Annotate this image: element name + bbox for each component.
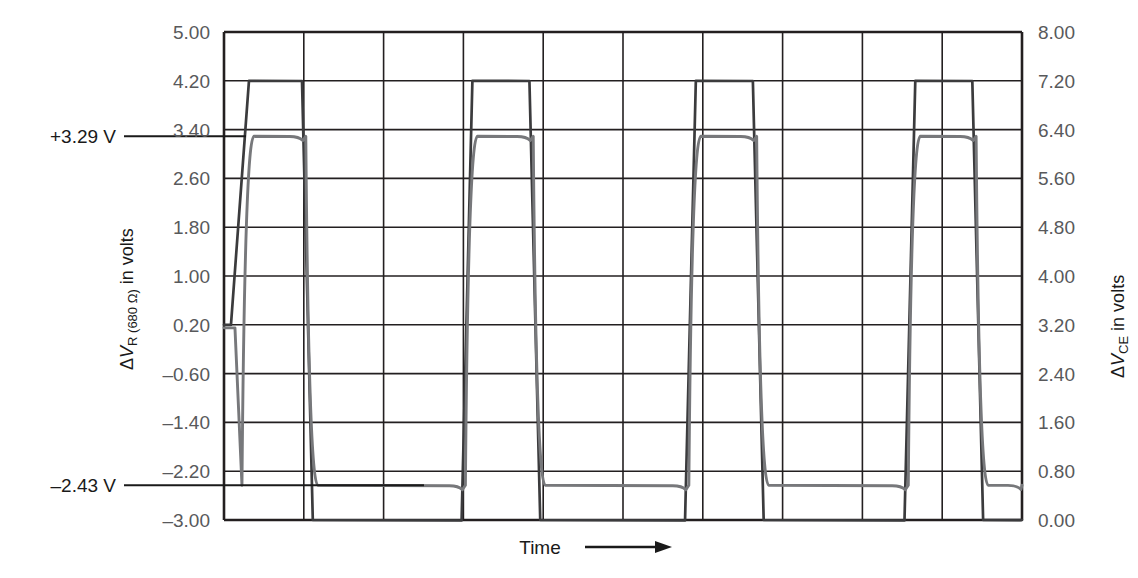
left-tick-label: –3.00	[162, 510, 210, 531]
right-tick-label: 8.00	[1038, 22, 1075, 43]
right-axis-title: ΔVCE in volts	[1108, 275, 1131, 378]
right-tick-label: 2.40	[1038, 364, 1075, 385]
annotation-value-label: +3.29 V	[50, 126, 116, 147]
annotation-value-label: –2.43 V	[51, 475, 117, 496]
x-axis-label: Time	[519, 537, 561, 558]
right-tick-label: 5.60	[1038, 168, 1075, 189]
right-tick-label: 0.00	[1038, 510, 1075, 531]
right-tick-label: 0.80	[1038, 461, 1075, 482]
right-axis-ticks: 8.007.206.405.604.804.003.202.401.600.80…	[1038, 22, 1075, 531]
right-tick-label: 4.00	[1038, 266, 1075, 287]
annotation-labels: +3.29 V–2.43 V	[50, 126, 116, 496]
left-tick-label: 0.20	[173, 315, 210, 336]
left-axis-title: ΔVR (680 Ω) in volts	[117, 228, 140, 370]
left-axis-ticks: 5.004.203.402.601.801.000.20–0.60–1.40–2…	[162, 22, 210, 531]
svg-text:ΔVCE in volts: ΔVCE in volts	[1108, 275, 1131, 378]
left-tick-label: –1.40	[162, 412, 210, 433]
svg-text:ΔVR (680 Ω) in volts: ΔVR (680 Ω) in volts	[117, 228, 140, 370]
chart-svg: 5.004.203.402.601.801.000.20–0.60–1.40–2…	[0, 0, 1138, 578]
right-tick-label: 3.20	[1038, 315, 1075, 336]
right-tick-label: 1.60	[1038, 412, 1075, 433]
waveform-chart: 5.004.203.402.601.801.000.20–0.60–1.40–2…	[0, 0, 1138, 578]
left-tick-label: 1.00	[173, 266, 210, 287]
left-tick-label: –2.20	[162, 461, 210, 482]
grid-lines	[224, 32, 1022, 520]
right-tick-label: 7.20	[1038, 71, 1075, 92]
right-tick-label: 4.80	[1038, 217, 1075, 238]
left-tick-label: 2.60	[173, 168, 210, 189]
left-tick-label: 1.80	[173, 217, 210, 238]
left-tick-label: –0.60	[162, 364, 210, 385]
right-tick-label: 6.40	[1038, 120, 1075, 141]
right-arrow-icon	[585, 541, 672, 553]
left-tick-label: 5.00	[173, 22, 210, 43]
left-tick-label: 4.20	[173, 71, 210, 92]
left-tick-label: 3.40	[173, 120, 210, 141]
